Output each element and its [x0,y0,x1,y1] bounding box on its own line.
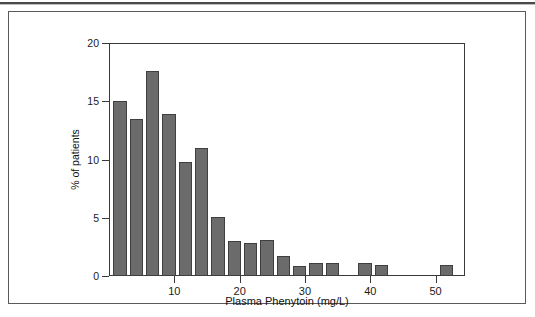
bar [309,263,322,276]
x-tick-mark [436,276,437,283]
bar [244,243,257,276]
y-tick-mark [102,218,109,219]
x-tick-mark [305,276,306,283]
figure-container: 05101520 1020304050 Plasma Phenytoin (mg… [8,11,526,304]
x-axis-title: Plasma Phenytoin (mg/L) [109,295,465,307]
y-tick-mark [102,276,109,277]
bar-series [109,43,465,276]
y-tick-mark [102,43,109,44]
bar [113,101,126,276]
y-tick-label: 5 [93,212,99,224]
bar [228,241,241,276]
bar [130,119,143,276]
y-tick-label: 10 [87,154,99,166]
bar [440,265,453,276]
top-divider-rule-shadow [0,4,535,5]
bar [326,263,339,276]
x-tick-mark [370,276,371,283]
bar [162,114,175,276]
x-tick-mark [240,276,241,283]
bar [277,256,290,276]
bar [358,263,371,276]
y-axis-title: % of patients [69,43,83,276]
y-tick-label: 0 [93,270,99,282]
bar [146,71,159,276]
bar [293,266,306,276]
bar [179,162,192,276]
y-tick-mark [102,160,109,161]
bar [260,240,273,276]
bar [211,217,224,276]
bar [195,148,208,276]
y-tick-mark [102,101,109,102]
y-tick-label: 15 [87,95,99,107]
y-tick-label: 20 [87,37,99,49]
plot-area: 05101520 1020304050 [109,43,465,276]
bar [375,265,388,276]
x-tick-mark [174,276,175,283]
